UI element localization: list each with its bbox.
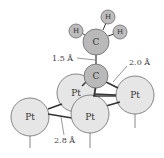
pt-atom-right: Pt — [116, 76, 154, 114]
h-atom-2: H — [101, 10, 115, 24]
h1-label: H — [73, 27, 79, 35]
c-bottom-label: C — [93, 71, 100, 81]
pt-right-label: Pt — [130, 90, 140, 100]
pt-back-label: Pt — [71, 88, 81, 98]
cc-dimension-leader — [77, 58, 95, 60]
h-atom-1: H — [69, 24, 83, 38]
c-pt-bond-length-label: 2.0 Å — [129, 58, 150, 67]
pt-pt-distance-label: 2.8 Å — [54, 136, 75, 145]
h-atom-3: H — [113, 25, 127, 39]
pt-pt-dimension-leader — [61, 117, 64, 135]
pt-atom-left: Pt — [11, 98, 49, 136]
pt-pt-bond-back-right — [94, 94, 116, 95]
pt-atom-front: Pt — [71, 95, 109, 133]
pt-pt-bond-left-back — [48, 104, 62, 109]
c-pt-bond-right — [106, 82, 118, 88]
h3-label: H — [117, 28, 123, 36]
c-top-label: C — [93, 37, 100, 47]
pt-left-label: Pt — [25, 112, 35, 122]
c-atom-top: C — [83, 29, 109, 55]
h2-label: H — [105, 13, 111, 21]
pt-pt-bond-left-front — [48, 114, 72, 118]
c-atom-bottom: C — [84, 64, 108, 88]
c-h-bond-2 — [103, 23, 106, 30]
molecule-diagram: Pt Pt Pt Pt C C H H — [0, 0, 164, 158]
cc-bond-length-label: 1.5 Å — [52, 54, 73, 63]
pt-front-label: Pt — [85, 112, 95, 122]
